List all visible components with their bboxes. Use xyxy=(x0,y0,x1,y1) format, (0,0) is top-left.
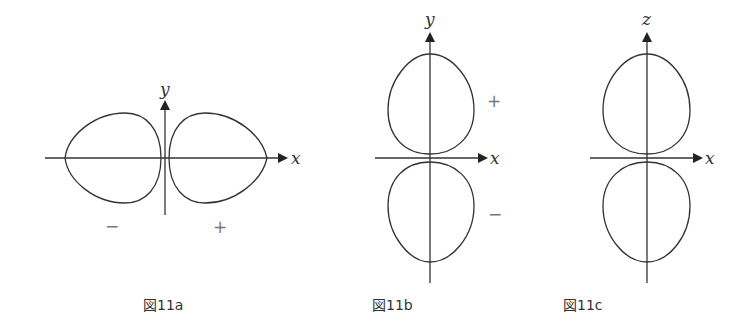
plus-sign: + xyxy=(487,91,501,111)
z-axis-label: z xyxy=(641,9,652,29)
minus-sign: − xyxy=(105,216,119,236)
x-axis-label: x xyxy=(705,148,715,168)
figure-11b: y x + − xyxy=(375,9,502,283)
lobe-top xyxy=(388,54,474,154)
y-axis-label: y xyxy=(159,79,170,99)
caption-11a: 図11a xyxy=(143,294,183,314)
caption-11b: 図11b xyxy=(372,294,413,314)
x-axis-label: x xyxy=(291,148,301,168)
plus-sign: + xyxy=(213,217,227,237)
caption-11c: 図11c xyxy=(563,294,603,314)
figure-11a: y x − + xyxy=(45,79,301,237)
lobe-bottom xyxy=(388,162,474,262)
orbital-diagrams: y x − + y x + − z x xyxy=(0,0,753,329)
x-axis-label: x xyxy=(490,148,500,168)
minus-sign: − xyxy=(488,204,502,224)
y-axis-label: y xyxy=(424,9,435,29)
figure-11c: z x xyxy=(590,9,715,283)
